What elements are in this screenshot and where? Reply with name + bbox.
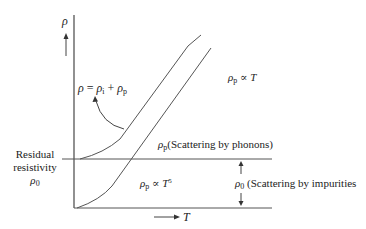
impurity-scattering-label: ρ0 (Scattering by impurities [235, 178, 356, 191]
residual-rho0: ρ0 [8, 174, 62, 190]
residual-sub: 0 [36, 179, 40, 188]
t5-regime-label: ρp ∝ T5 [140, 178, 172, 191]
y-arrowhead-icon [64, 33, 69, 39]
t5-rel: ∝ [149, 177, 162, 189]
rho0-up-arrowhead-icon [239, 161, 244, 166]
diagram-graphics [0, 0, 366, 229]
rho0-down-arrowhead-icon [239, 201, 244, 206]
pointer-arrow-icon [96, 101, 124, 129]
total-eq-plus: + [105, 81, 118, 95]
phonon-text: (Scattering by phonons) [167, 138, 273, 150]
residual-line2: resistivity [8, 161, 62, 174]
residual-line1: Residual [8, 148, 62, 161]
total-eq-sub-p: p [123, 87, 127, 96]
x-arrowhead-icon [174, 215, 180, 220]
total-eq-equals: = [84, 81, 97, 95]
resistivity-diagram: ρ T ρ = ρi + ρp ρp ∝ T ρp(Scattering by … [0, 0, 366, 229]
residual-resistivity-label: Residual resistivity ρ0 [8, 148, 62, 190]
pointer-arrowhead-icon [93, 96, 99, 102]
y-axis-label: ρ [62, 15, 68, 27]
linear-regime-label: ρp ∝ T [228, 72, 256, 85]
x-axis-label: T [183, 211, 190, 223]
linear-rel: ∝ [237, 71, 250, 83]
linear-var: T [250, 71, 256, 83]
total-equation-label: ρ = ρi + ρp [78, 82, 127, 96]
phonon-scattering-label: ρp(Scattering by phonons) [158, 139, 273, 152]
t5-exp: 5 [168, 177, 172, 185]
impurity-text: (Scattering by impurities [244, 177, 356, 189]
